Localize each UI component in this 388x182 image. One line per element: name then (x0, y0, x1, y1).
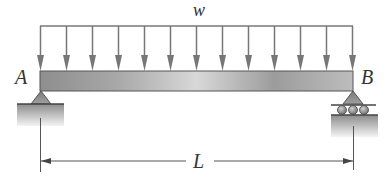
down-arrow-icon (297, 55, 304, 71)
dimension-arrow-right-icon (343, 158, 353, 164)
down-arrow-icon (323, 55, 330, 71)
down-arrow-icon (37, 55, 44, 71)
roller-icon (338, 106, 347, 115)
roller-icon (349, 106, 358, 115)
load-label-w: w (193, 0, 205, 20)
load-arrows (37, 26, 356, 71)
down-arrow-icon (115, 55, 122, 71)
distributed-load (37, 26, 356, 71)
support-label-a: A (13, 66, 28, 88)
down-arrow-icon (193, 55, 200, 71)
down-arrow-icon (349, 55, 356, 71)
support-label-b: B (361, 66, 373, 88)
down-arrow-icon (141, 55, 148, 71)
down-arrow-icon (63, 55, 70, 71)
down-arrow-icon (167, 55, 174, 71)
down-arrow-icon (219, 55, 226, 71)
ground-block-b (331, 115, 378, 137)
roller-icon (360, 106, 369, 115)
down-arrow-icon (89, 55, 96, 71)
beam-diagram: w A B L (0, 0, 388, 182)
down-arrow-icon (271, 55, 278, 71)
pin-triangle-icon (31, 91, 51, 104)
down-arrow-icon (245, 55, 252, 71)
dimension-arrow-left-icon (41, 158, 51, 164)
beam (40, 71, 353, 91)
roller-triangle-icon (343, 91, 363, 104)
roller-support-b (331, 91, 378, 137)
span-label-l: L (192, 150, 204, 172)
